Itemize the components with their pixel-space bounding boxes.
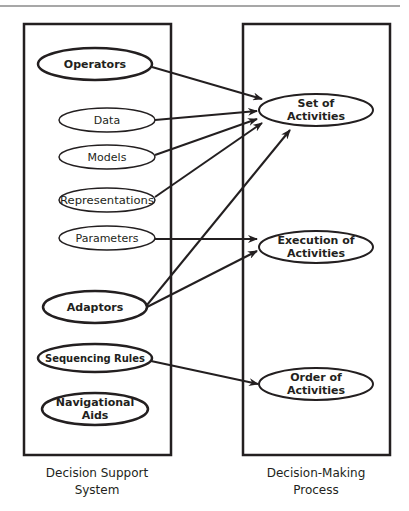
node-label: Representations (60, 194, 154, 207)
node-sequencing-rules: Sequencing Rules (38, 344, 152, 372)
node-label: Data (94, 114, 120, 127)
edge-adaptors-to-set-of-activities (147, 130, 290, 305)
node-execution-of-activities: Execution of Activities (259, 231, 373, 263)
node-label: Operators (64, 58, 127, 71)
node-label-line1: Order of (290, 371, 342, 384)
node-representations: Representations (59, 188, 155, 212)
node-order-of-activities: Order of Activities (259, 368, 373, 400)
node-label-line1: Set of (298, 97, 335, 110)
node-label-line2: Activities (287, 384, 345, 397)
node-operators: Operators (38, 48, 152, 80)
node-label-line2: Activities (287, 247, 345, 260)
edge-adaptors-to-execution-of-activities (147, 251, 257, 307)
node-label: Sequencing Rules (45, 352, 145, 365)
node-data: Data (59, 108, 155, 132)
right-panel-caption-line2: Process (293, 483, 339, 497)
left-panel-caption-line1: Decision Support (46, 466, 149, 480)
edge-operators-to-set-of-activities (152, 67, 262, 99)
node-label: Parameters (76, 232, 139, 245)
node-models: Models (59, 145, 155, 169)
node-set-of-activities: Set of Activities (259, 94, 373, 126)
node-label-line1: Navigational (56, 396, 134, 409)
node-navigational-aids: Navigational Aids (42, 393, 148, 425)
node-label-line1: Execution of (277, 234, 354, 247)
left-panel-caption-line2: System (75, 483, 120, 497)
dss-to-decision-process-diagram: Operators Data Models Representations Pa… (0, 0, 409, 511)
node-label-line2: Aids (82, 409, 109, 422)
node-label-line2: Activities (287, 110, 345, 123)
node-label: Models (88, 151, 127, 164)
node-parameters: Parameters (59, 226, 155, 250)
node-adaptors: Adaptors (43, 291, 147, 323)
node-label: Adaptors (67, 301, 124, 314)
right-panel-caption-line1: Decision-Making (267, 466, 366, 480)
